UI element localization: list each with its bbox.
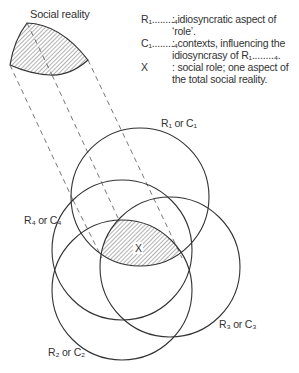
legend-row: X : social role; one aspect of the total… [141, 61, 299, 85]
legend: R₁........₄ : idiosyncratic aspect of ‘r… [141, 13, 299, 85]
legend-text: : idiosyncratic aspect of ‘role’. [172, 13, 299, 37]
legend-key: X [141, 61, 172, 85]
circle-r3-c3 [100, 197, 240, 337]
legend-text: : social role; one aspect of the total s… [172, 61, 299, 85]
circle-label-4: R₄ or C₄ [24, 214, 61, 226]
legend-text: : contexts, influencing the idiosyncrasy… [172, 37, 299, 61]
social-reality-label: Social reality [30, 8, 90, 20]
social-reality-shape [10, 23, 88, 75]
diagram-root: Social reality R₁ or C₁ R₄ or C₄ R₃ or C… [0, 0, 299, 373]
circle-label-2: R₂ or C₂ [48, 346, 85, 358]
legend-row: C₁........₄ : contexts, influencing the … [141, 37, 299, 61]
circle-label-1: R₁ or C₁ [161, 117, 197, 129]
legend-key: C₁........₄ [141, 37, 172, 61]
legend-key: R₁........₄ [141, 13, 172, 37]
center-label-x: X [135, 242, 142, 254]
circle-label-3: R₃ or C₃ [219, 318, 256, 330]
legend-row: R₁........₄ : idiosyncratic aspect of ‘r… [141, 13, 299, 37]
